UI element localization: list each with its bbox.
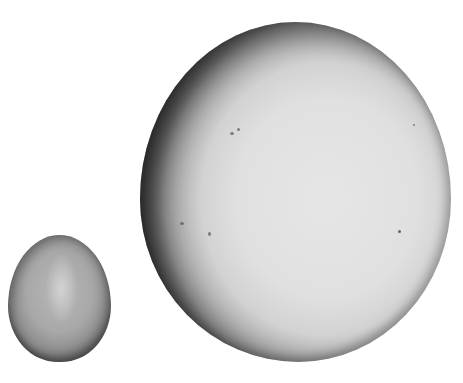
small-egg: [8, 235, 111, 362]
shell-speck: [398, 230, 401, 233]
large-egg: [140, 22, 451, 362]
shell-speck: [208, 232, 211, 236]
shell-speck: [230, 132, 234, 135]
shell-speck: [180, 222, 184, 225]
shell-speck: [237, 128, 240, 131]
shell-speck: [413, 124, 415, 126]
photo-scene: [0, 0, 463, 383]
